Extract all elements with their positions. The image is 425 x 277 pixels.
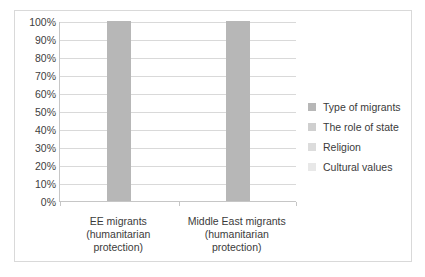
gridline — [60, 40, 296, 41]
y-tick-label: 60% — [16, 89, 56, 99]
gridline — [60, 58, 296, 59]
gridline — [60, 166, 296, 167]
legend-item[interactable]: Type of migrants — [308, 97, 412, 117]
x-axis: EE migrants(humanitarianprotection)Middl… — [59, 207, 296, 257]
y-axis: 0%10%20%30%40%50%60%70%80%90%100% — [15, 22, 56, 202]
legend-swatch-icon — [308, 143, 316, 151]
x-category-label-line: Middle East migrants — [178, 215, 297, 228]
gridline — [60, 112, 296, 113]
gridline — [60, 148, 296, 149]
y-tick-mark — [52, 130, 56, 131]
legend-label: Cultural values — [323, 162, 392, 173]
legend-label: The role of state — [323, 122, 399, 133]
y-tick-label: 100% — [16, 17, 56, 27]
chart-frame: 0%10%20%30%40%50%60%70%80%90%100% EE mig… — [14, 10, 412, 262]
y-tick-mark — [52, 22, 56, 23]
y-tick-label: 20% — [16, 161, 56, 171]
legend-item[interactable]: Cultural values — [308, 157, 412, 177]
bar — [107, 21, 131, 201]
y-tick-label: 70% — [16, 71, 56, 81]
legend-label: Religion — [323, 142, 361, 153]
x-category-label-line: protection) — [178, 241, 297, 254]
x-tick-mark — [296, 202, 297, 206]
y-tick-label: 30% — [16, 143, 56, 153]
x-category-label-line: protection) — [59, 241, 178, 254]
gridline — [60, 22, 296, 23]
chart-legend: Type of migrantsThe role of stateReligio… — [308, 97, 412, 177]
y-tick-mark — [52, 202, 56, 203]
legend-item[interactable]: Religion — [308, 137, 412, 157]
x-tick-mark — [60, 202, 61, 206]
plot-area — [59, 22, 296, 202]
legend-swatch-icon — [308, 163, 316, 171]
y-tick-label: 90% — [16, 35, 56, 45]
legend-swatch-icon — [308, 103, 316, 111]
legend-label: Type of migrants — [323, 102, 401, 113]
y-tick-label: 0% — [16, 197, 56, 207]
x-tick-mark — [179, 202, 180, 206]
y-tick-mark — [52, 148, 56, 149]
x-category-label-line: (humanitarian — [59, 228, 178, 241]
x-category-label-line: EE migrants — [59, 215, 178, 228]
bar — [226, 21, 250, 201]
y-tick-label: 10% — [16, 179, 56, 189]
gridline — [60, 76, 296, 77]
y-tick-mark — [52, 166, 56, 167]
x-category-label: EE migrants(humanitarianprotection) — [59, 215, 178, 254]
legend-item[interactable]: The role of state — [308, 117, 412, 137]
y-tick-label: 80% — [16, 53, 56, 63]
y-tick-mark — [52, 40, 56, 41]
y-tick-label: 40% — [16, 125, 56, 135]
y-tick-mark — [52, 94, 56, 95]
y-tick-label: 50% — [16, 107, 56, 117]
x-category-label-line: (humanitarian — [178, 228, 297, 241]
y-tick-mark — [52, 76, 56, 77]
legend-swatch-icon — [308, 123, 316, 131]
gridline — [60, 184, 296, 185]
gridline — [60, 94, 296, 95]
x-category-label: Middle East migrants(humanitarianprotect… — [178, 215, 297, 254]
y-tick-mark — [52, 58, 56, 59]
y-tick-mark — [52, 112, 56, 113]
y-tick-mark — [52, 184, 56, 185]
gridline — [60, 130, 296, 131]
